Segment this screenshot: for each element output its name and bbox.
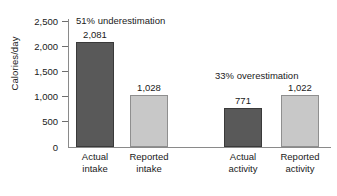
x-category-line1: Reported <box>110 151 188 163</box>
x-category-line2: activity <box>261 163 337 175</box>
bar-value-actual-intake: 2,081 <box>60 30 130 40</box>
y-tick-label-2500: 2,500 <box>0 17 58 26</box>
x-category-line1: Reported <box>261 151 337 163</box>
bar-reported-intake <box>130 95 168 147</box>
y-tick-label-1000: 1,000 <box>0 92 58 101</box>
bar-value-actual-activity: 771 <box>208 96 278 106</box>
bar-value-reported-intake: 1,028 <box>114 83 184 93</box>
y-tick-label-500: 500 <box>0 117 58 126</box>
x-category-label-reported-intake: Reported intake <box>110 151 188 174</box>
x-category-label-reported-activity: Reported activity <box>261 151 337 174</box>
bar-actual-activity <box>224 108 262 147</box>
bar-value-reported-activity: 1,022 <box>265 83 335 93</box>
x-axis-line <box>68 147 331 148</box>
y-tick-label-2000: 2,000 <box>0 42 58 51</box>
annotation-underestimation: 51% underestimation <box>76 16 165 26</box>
x-category-line2: intake <box>110 163 188 175</box>
y-tick-label-0: 0 <box>0 143 58 152</box>
annotation-overestimation: 33% overestimation <box>215 71 298 81</box>
y-tick-label-1500: 1,500 <box>0 67 58 76</box>
bar-reported-activity <box>281 95 319 147</box>
bar-chart: Calories/day 2,500 2,000 1,500 1,000 500… <box>0 0 337 196</box>
bar-actual-intake <box>76 42 114 147</box>
